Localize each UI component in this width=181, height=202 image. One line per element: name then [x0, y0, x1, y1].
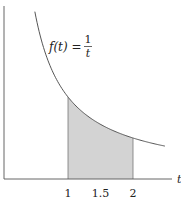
chart: f(t) = 1 t 11.52 t — [0, 0, 181, 202]
function-label-numerator: 1 — [85, 33, 92, 46]
shaded-area-integral — [68, 97, 133, 179]
x-tick-label: 1.5 — [92, 187, 110, 200]
function-label-denominator: t — [86, 47, 91, 60]
x-axis-label: t — [177, 173, 181, 186]
x-tick-label: 2 — [130, 187, 137, 200]
function-label-lhs: f(t) = — [48, 40, 82, 54]
x-tick-labels: 11.52 — [65, 187, 137, 200]
x-tick-label: 1 — [65, 187, 72, 200]
